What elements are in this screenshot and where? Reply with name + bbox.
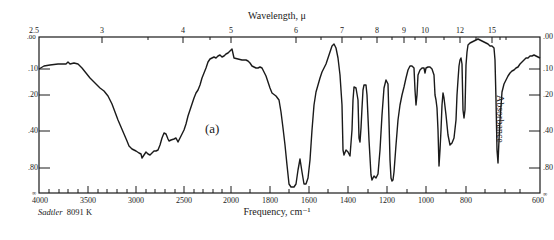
bottom-tick-label: 1400 — [340, 197, 356, 205]
top-tick-label: 9 — [402, 27, 406, 35]
bottom-tick-label: 1600 — [301, 197, 317, 205]
bottom-tick-label: 1800 — [262, 197, 278, 205]
bottom-tick-label: 3000 — [128, 197, 144, 205]
left-tick-label: .20 — [28, 91, 38, 99]
top-tick-label: 6 — [294, 27, 298, 35]
top-tick-label: 12 — [456, 27, 464, 35]
bottom-tick-label: 1000 — [418, 197, 434, 205]
top-ticks — [102, 37, 506, 43]
y-axis-title: Absorbance — [495, 95, 506, 143]
right-tick-label: .80 — [543, 164, 553, 172]
left-tick-label: .00 — [27, 33, 36, 41]
bottom-tick-label: 1200 — [379, 197, 395, 205]
right-tick-label: .00 — [543, 33, 553, 41]
spectrum-annotation: (a) — [205, 121, 219, 137]
source-name: Sadtler — [38, 207, 63, 217]
top-tick-label: 7 — [340, 27, 344, 35]
right-tick-label: .40 — [543, 127, 553, 135]
top-tick-label: 8 — [375, 27, 379, 35]
bottom-tick-label: 600 — [532, 197, 544, 205]
right-tick-label: .20 — [543, 91, 553, 99]
source-number: 8091 K — [67, 207, 92, 217]
top-tick-label: 15 — [488, 27, 496, 35]
bottom-tick-label: 4000 — [32, 197, 48, 205]
top-tick-label: 10 — [421, 27, 429, 35]
left-tick-label: .10 — [28, 65, 38, 73]
absorbance-ticks — [39, 69, 540, 168]
left-tick-label: .80 — [28, 164, 38, 172]
top-tick-label: 5 — [229, 27, 233, 35]
source-label: Sadtler 8091 K — [38, 207, 92, 217]
top-tick-label: 4 — [181, 27, 185, 35]
right-tick-label: .10 — [543, 65, 553, 73]
bottom-tick-label: 800 — [460, 197, 472, 205]
spectrum-curve — [39, 39, 540, 187]
bottom-tick-label: 3500 — [80, 197, 96, 205]
left-tick-label: .40 — [28, 127, 38, 135]
bottom-ticks — [49, 186, 520, 193]
bottom-tick-label: 2500 — [176, 197, 192, 205]
bottom-tick-label: 2000 — [223, 197, 239, 205]
top-tick-label: 3 — [100, 27, 104, 35]
